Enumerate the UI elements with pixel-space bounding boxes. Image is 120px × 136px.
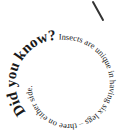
spiral-text-graphic: Did you know? Insects are unique in havi… — [0, 0, 120, 136]
spiral-text: Did you know? Insects are unique in havi… — [3, 27, 119, 132]
body-inner: six legs – three on either side. — [24, 85, 112, 132]
body-outer: Insects are unique in having — [56, 32, 118, 107]
headline: Did you know? — [3, 27, 57, 120]
pen-stroke — [93, 2, 103, 20]
